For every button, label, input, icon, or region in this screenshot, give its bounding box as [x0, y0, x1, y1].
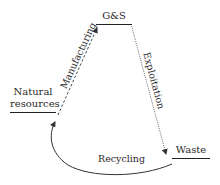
node-natural-resources: Natural resources — [10, 86, 56, 113]
node-waste-label: Waste — [176, 144, 206, 155]
node-underline — [172, 158, 210, 159]
node-underline — [96, 24, 132, 25]
node-goods-services-label: G&S — [102, 10, 126, 21]
node-underline — [10, 112, 56, 113]
node-natural-resources-label-line2: resources — [10, 98, 56, 110]
node-goods-services: G&S — [96, 10, 132, 25]
node-natural-resources-label-line1: Natural — [10, 86, 56, 98]
edge-label-recycling: Recycling — [98, 153, 145, 164]
recycling-arrow — [51, 122, 172, 175]
node-waste: Waste — [172, 144, 210, 159]
